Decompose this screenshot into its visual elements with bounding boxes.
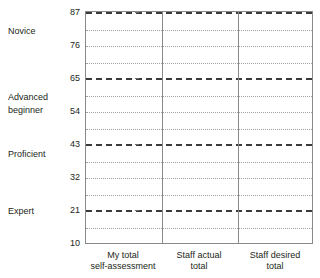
y-level-label: Proficient	[8, 148, 60, 161]
y-tick-mark	[135, 12, 139, 13]
y-tick-label: 87	[52, 7, 80, 17]
y-tick-label: 65	[52, 73, 80, 83]
column-separator	[162, 12, 163, 243]
gridline-minor	[86, 178, 312, 179]
y-level-label: beginner	[8, 104, 60, 117]
y-tick-mark	[135, 210, 139, 211]
y-tick-mark	[135, 144, 139, 145]
gridline-minor	[86, 228, 312, 229]
gridline-minor	[86, 195, 312, 196]
gridline-major	[86, 12, 312, 14]
gridline-minor	[86, 162, 312, 163]
plot-area	[85, 11, 313, 244]
column-separator	[238, 12, 239, 243]
gridline-minor	[86, 30, 312, 31]
chart-figure: Competency self-assessment vs. staff rat…	[0, 0, 320, 278]
y-tick-label: 76	[52, 40, 80, 50]
x-axis-label-line1: Staff desired	[237, 250, 313, 261]
gridline-minor	[86, 112, 312, 113]
y-tick-label: 32	[52, 172, 80, 182]
x-axis-label-line1: Staff actual	[161, 250, 237, 261]
y-level-label: Expert	[8, 205, 60, 218]
x-axis-label-line2: total	[237, 261, 313, 272]
gridline-minor	[86, 46, 312, 47]
y-level-label: Novice	[8, 25, 60, 38]
x-axis-label: Staff desiredtotal	[237, 248, 313, 276]
x-axis-label: My totalself-assessment	[85, 248, 161, 276]
gridline-major	[86, 144, 312, 146]
x-axis-label-line1: My total	[85, 250, 161, 261]
gridline-minor	[86, 63, 312, 64]
x-axis-label-line2: total	[161, 261, 237, 272]
gridline-minor	[86, 96, 312, 97]
gridline-major	[86, 210, 312, 212]
x-axis-label-line2: self-assessment	[85, 261, 161, 272]
gridline-major	[86, 78, 312, 80]
y-level-label: Advanced	[8, 91, 60, 104]
y-tick-mark	[135, 78, 139, 79]
x-axis-labels: My totalself-assessmentStaff actualtotal…	[85, 248, 313, 276]
x-axis-label: Staff actualtotal	[161, 248, 237, 276]
gridline-minor	[86, 129, 312, 130]
chart-title: Competency self-assessment vs. staff rat…	[60, 0, 270, 1]
y-axis-level-labels: NoviceAdvancedbeginnerProficientExpert	[4, 11, 50, 244]
y-tick-label: 10	[52, 238, 80, 248]
